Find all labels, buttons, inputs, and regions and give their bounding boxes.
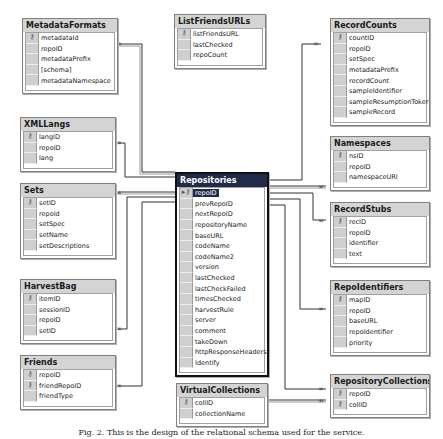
svg-text:∞: ∞ (318, 183, 324, 191)
table-friends[interactable]: Friends ⚷repoID⚷friendRepoIDfriendType (20, 355, 116, 410)
row-selector (178, 50, 191, 61)
column-row[interactable]: version (180, 262, 264, 273)
column-row[interactable]: sampleIdentifier (334, 86, 426, 97)
column-row[interactable]: ⚷collID (334, 400, 426, 411)
column-row[interactable]: ⚷setID (24, 198, 112, 209)
table-title: MetadataFormats (23, 19, 117, 32)
table-title: Friends (21, 356, 115, 369)
column-row[interactable]: baseURL (334, 316, 426, 327)
column-row[interactable]: lastCheckFailed (180, 283, 264, 294)
table-metadataformats[interactable]: MetadataFormats ⚷metadataIdrepoIDmetadat… (22, 18, 118, 94)
column-row[interactable]: sessionID (24, 305, 112, 316)
column-row[interactable]: ⚷repoID (334, 389, 426, 400)
table-title: VirtualCollections (177, 384, 267, 397)
column-row[interactable]: metadataNamespace (26, 75, 114, 86)
column-row[interactable]: repoCount (178, 50, 262, 61)
column-row[interactable]: recordCount (334, 75, 426, 86)
table-repositories[interactable]: Repositories ▸⚷repoIDprevRepoIDnextRepoI… (175, 172, 269, 377)
table-harvestbag[interactable]: HarvestBag ⚷itemIDsessionIDrepoIDsetID (20, 279, 116, 344)
column-row[interactable]: text (334, 249, 426, 260)
column-row[interactable]: identifier (334, 238, 426, 249)
column-name: setSpec (347, 55, 375, 63)
column-name: repoID (37, 316, 61, 324)
column-row[interactable]: repositoryName (180, 220, 264, 231)
column-row[interactable]: server (180, 315, 264, 326)
column-name: timesChecked (193, 295, 241, 303)
column-row[interactable]: repoID (334, 162, 426, 173)
column-row[interactable]: Identify (180, 358, 264, 369)
column-row[interactable]: repoID (334, 228, 426, 239)
column-row[interactable]: sampleResumptionToker (334, 97, 426, 108)
column-row[interactable]: ⚷collID (180, 398, 264, 409)
column-row[interactable]: httpResponseHeaders (180, 347, 264, 358)
column-row[interactable]: codeName (180, 241, 264, 252)
column-row[interactable]: metadataPrefix (334, 65, 426, 76)
column-row[interactable]: repoID (24, 143, 112, 154)
column-row[interactable]: setSpec (24, 219, 112, 230)
column-row[interactable]: prevRepoID (180, 199, 264, 210)
table-recordcounts[interactable]: RecordCounts ⚷countIDrepoIDsetSpecmetada… (330, 18, 430, 126)
row-selector (180, 241, 193, 252)
column-row[interactable]: timesChecked (180, 294, 264, 305)
column-row[interactable]: priority (334, 337, 426, 348)
column-row[interactable]: repoID (334, 306, 426, 317)
column-row[interactable]: friendType (24, 391, 112, 402)
column-row[interactable]: repoID (26, 44, 114, 55)
column-row[interactable]: setSpec (334, 54, 426, 65)
table-xmllangs[interactable]: XMLLangs ⚷langIDrepoIDlang (20, 117, 116, 172)
column-row[interactable]: ⚷listFriendsURL (178, 29, 262, 40)
table-sets[interactable]: Sets ⚷setIDrepoIdsetSpecsetNamesetDescri… (20, 183, 116, 259)
table-repositorycollections[interactable]: RepositoryCollections ⚷repoID⚷collID (330, 374, 430, 418)
column-name: setName (37, 231, 68, 239)
column-row[interactable]: setID (24, 326, 112, 337)
column-row[interactable]: codeName2 (180, 252, 264, 263)
column-row[interactable]: ⚷recID (334, 217, 426, 228)
row-selector (180, 409, 193, 420)
table-recordstubs[interactable]: RecordStubs ⚷recIDrepoIDidentifiertext (330, 202, 430, 267)
primary-key-icon: ⚷ (24, 370, 37, 381)
column-row[interactable]: ⚷langID (24, 132, 112, 143)
column-row[interactable]: ⚷metadataId (26, 33, 114, 44)
column-row[interactable]: repoIdentifier (334, 327, 426, 338)
column-row[interactable]: harvestRule (180, 305, 264, 316)
column-name: lastChecked (193, 274, 235, 282)
column-name: sampleRecord (347, 108, 395, 116)
column-name: repoID (347, 307, 371, 315)
column-row[interactable]: repoID (334, 44, 426, 55)
column-row[interactable]: lang (24, 153, 112, 164)
column-name: lastChecked (191, 41, 233, 49)
column-row[interactable]: lastChecked (178, 40, 262, 51)
column-name: [schema] (39, 66, 71, 74)
column-row[interactable]: metadataPrefix (26, 54, 114, 65)
column-row[interactable]: [schema] (26, 65, 114, 76)
column-name: prevRepoID (193, 200, 233, 208)
column-row[interactable]: namespaceURI (334, 172, 426, 183)
table-virtualcollections[interactable]: VirtualCollections ⚷collIDcollectionName (176, 383, 268, 427)
column-name: langID (37, 133, 60, 141)
table-repoidentifiers[interactable]: RepoIdentifiers ⚷mapIDrepoIDbaseURLrepoI… (330, 280, 430, 356)
column-row[interactable]: baseURL (180, 230, 264, 241)
row-selector (24, 209, 37, 220)
column-row[interactable]: nextRepoID (180, 209, 264, 220)
column-row[interactable]: repoId (24, 209, 112, 220)
column-row[interactable]: repoID (24, 315, 112, 326)
column-name: takeDown (193, 338, 227, 346)
column-name: codeName (193, 242, 230, 250)
column-row[interactable]: collectionName (180, 409, 264, 420)
column-name: setDescriptions (37, 242, 89, 250)
column-row[interactable]: ⚷nsID (334, 151, 426, 162)
column-row[interactable]: ⚷itemID (24, 294, 112, 305)
column-row[interactable]: lastChecked (180, 273, 264, 284)
column-row[interactable]: setDescriptions (24, 240, 112, 251)
column-row[interactable]: ⚷countID (334, 33, 426, 44)
column-row[interactable]: ⚷repoID (24, 370, 112, 381)
column-row[interactable]: ⚷mapID (334, 295, 426, 306)
column-row[interactable]: comment (180, 326, 264, 337)
column-row[interactable]: ▸⚷repoID (180, 188, 264, 199)
table-namespaces[interactable]: Namespaces ⚷nsIDrepoIDnamespaceURI (330, 136, 430, 191)
table-listfriendsurls[interactable]: ListFriendsURLs ⚷listFriendsURLlastCheck… (174, 14, 266, 69)
column-row[interactable]: sampleRecord (334, 107, 426, 118)
column-row[interactable]: takeDown (180, 336, 264, 347)
column-row[interactable]: ⚷friendRepoID (24, 381, 112, 392)
column-row[interactable]: setName (24, 230, 112, 241)
